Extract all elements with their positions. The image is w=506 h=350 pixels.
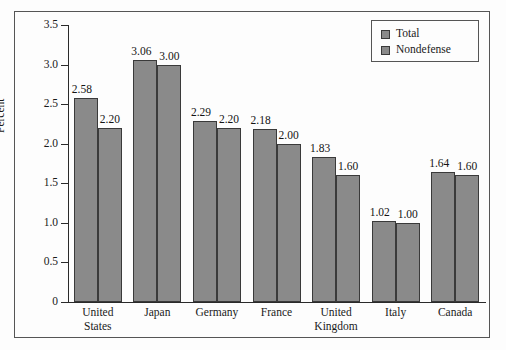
y-axis-tick [61,262,68,263]
category-label-line: States [68,320,128,334]
bar-value-label: 2.20 [219,114,239,126]
x-axis-category-label: UnitedKingdom [306,306,366,333]
bar [431,172,455,302]
y-axis-tick-label: 3.0 [18,59,58,71]
bar [217,128,241,302]
category-label-line: Japan [128,306,188,320]
y-axis-tick-label: 1.5 [18,177,58,189]
category-label-line: Italy [366,306,426,320]
x-axis-category-label: Germany [187,306,247,320]
bar-value-label: 1.60 [457,161,477,173]
y-axis-tick-label: 0.5 [18,256,58,268]
bar-value-label: 2.20 [100,114,120,126]
bar [336,175,360,302]
x-axis-category-label: Japan [128,306,188,320]
legend-item-total: Total [381,26,478,42]
bar [98,128,122,302]
x-axis-category-label: Canada [425,306,485,320]
category-label-line: United [68,306,128,320]
bar-value-label: 2.58 [72,84,92,96]
category-label-line: France [247,306,307,320]
y-axis-tick [61,144,68,145]
x-axis-category-label: France [247,306,307,320]
bar [455,175,479,302]
bar [312,157,336,302]
y-axis-tick [61,25,68,26]
x-axis-line [68,302,486,303]
bar-value-label: 3.00 [159,51,179,63]
bar-value-label: 3.06 [131,46,151,58]
bar-value-label: 2.18 [251,115,271,127]
legend: Total Nondefense [371,20,479,62]
category-label-line: Canada [425,306,485,320]
bar [74,98,98,302]
y-axis-tick [61,65,68,66]
y-axis-tick-label: 1.0 [18,217,58,229]
category-label-line: United [306,306,366,320]
category-label-line: Germany [187,306,247,320]
legend-label: Nondefense [396,44,451,56]
bar [277,144,301,302]
y-axis-tick-label: 0 [18,296,58,308]
y-axis-tick [61,302,68,303]
y-axis-line [68,25,69,303]
bar [253,129,277,302]
x-axis-category-label: Italy [366,306,426,320]
legend-swatch-icon [381,46,390,55]
bar [372,221,396,302]
y-axis-tick-label: 3.5 [18,19,58,31]
y-axis-tick-label: 2.0 [18,138,58,150]
bar [157,65,181,302]
y-axis-tick [61,183,68,184]
bar-value-label: 1.64 [429,158,449,170]
legend-swatch-icon [381,30,390,39]
y-axis-tick [61,104,68,105]
bar [133,60,157,302]
legend-label: Total [396,28,419,40]
y-axis-tick [61,223,68,224]
bar-value-label: 1.60 [338,161,358,173]
bar-value-label: 2.29 [191,107,211,119]
bar-value-label: 1.00 [398,209,418,221]
figure: Percent 00.51.01.52.02.53.03.5 2.582.203… [0,0,506,350]
bar [396,223,420,302]
y-axis-tick-label: 2.5 [18,98,58,110]
bar-value-label: 1.83 [310,143,330,155]
category-label-line: Kingdom [306,320,366,334]
bar [193,121,217,302]
bar-value-label: 1.02 [370,207,390,219]
x-axis-category-label: UnitedStates [68,306,128,333]
y-axis-title: Percent [0,99,6,133]
bar-value-label: 2.00 [279,130,299,142]
legend-item-nondefense: Nondefense [381,42,478,58]
y-axis-tick-labels: 00.51.01.52.02.53.03.5 [14,0,58,350]
